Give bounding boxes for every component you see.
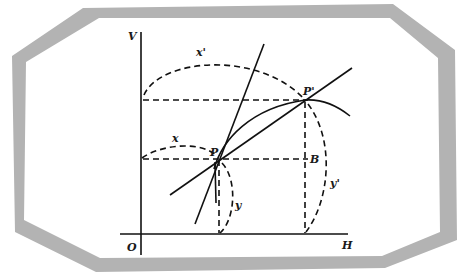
origin-label: O [127, 241, 137, 254]
point-p-prime-label: P' [302, 85, 315, 98]
horizontal-axis-label: H [341, 239, 353, 252]
arc-x-label: x [171, 132, 179, 145]
arc-y-prime-label: y' [329, 177, 340, 190]
point-p-label: P [209, 146, 219, 159]
octagon-frame [12, 4, 457, 272]
point-b-label: B [309, 153, 319, 166]
vertical-axis-label: V [128, 30, 138, 43]
steep-tangent-line [195, 44, 264, 224]
arc-x-prime [144, 65, 305, 100]
arc-x-prime-label: x' [195, 46, 206, 59]
diagram-canvas: V H O P P' B x x' y y' [0, 0, 460, 279]
shallow-secant-line [170, 68, 352, 195]
short-vertical-mark [215, 162, 216, 203]
axes [120, 32, 348, 255]
arc-y-prime [306, 104, 326, 232]
arc-y [220, 163, 233, 233]
arc-y-label: y [234, 199, 243, 212]
arc-x [142, 146, 217, 158]
